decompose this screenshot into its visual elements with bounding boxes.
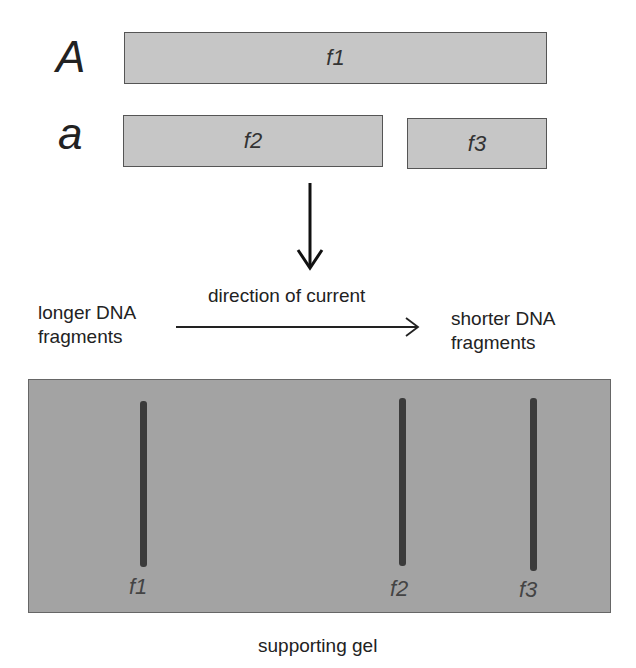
right-arrow-icon	[174, 314, 422, 340]
longer-line-2: fragments	[38, 325, 136, 349]
longer-fragments-label: longer DNA fragments	[38, 301, 136, 349]
band-f2-label: f2	[390, 576, 408, 602]
fragment-f2-label: f2	[244, 128, 262, 154]
gel-caption: supporting gel	[258, 634, 377, 658]
band-f3	[530, 398, 537, 571]
allele-label-a: a	[58, 112, 82, 156]
allele-label-A: A	[56, 35, 85, 79]
fragment-f3-label: f3	[468, 131, 486, 157]
band-f3-label: f3	[519, 577, 537, 603]
fragment-f3: f3	[407, 118, 547, 169]
down-arrow-icon	[295, 180, 325, 272]
shorter-line-2: fragments	[451, 331, 556, 355]
fragment-f1: f1	[124, 32, 547, 84]
shorter-line-1: shorter DNA	[451, 307, 556, 331]
band-f1-label: f1	[129, 574, 147, 600]
band-f2	[399, 398, 406, 566]
supporting-gel: f1 f2 f3	[28, 379, 611, 613]
fragment-f2: f2	[123, 115, 383, 167]
direction-label: direction of current	[208, 284, 365, 308]
fragment-f1-label: f1	[326, 45, 344, 71]
shorter-fragments-label: shorter DNA fragments	[451, 307, 556, 355]
band-f1	[140, 401, 147, 567]
longer-line-1: longer DNA	[38, 301, 136, 325]
